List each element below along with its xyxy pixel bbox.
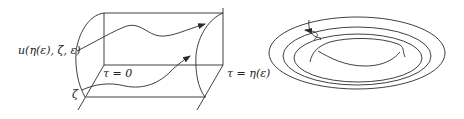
trajectory-lower xyxy=(82,56,190,90)
label-zeta: ζ xyxy=(72,88,79,101)
label-tau-eta: τ = η(ε) xyxy=(227,67,270,80)
orbit-ring-2 xyxy=(283,27,431,85)
floor-left-edge xyxy=(78,65,104,110)
trajectory-upper xyxy=(77,24,205,51)
inner-open-curve xyxy=(310,38,405,62)
closed-orbits-diagram xyxy=(269,17,445,89)
spiral-connector xyxy=(309,20,321,40)
label-solution: u(η(ε), ζ, ε) xyxy=(18,44,81,57)
diagram-canvas: u(η(ε), ζ, ε) ζ τ = 0 τ = η(ε) xyxy=(0,0,464,119)
label-tau-zero: τ = 0 xyxy=(103,67,132,80)
floor-right-edge xyxy=(197,65,223,110)
flow-tube-diagram: u(η(ε), ζ, ε) ζ τ = 0 τ = η(ε) xyxy=(18,8,270,110)
inner-lower-curve xyxy=(318,51,400,66)
orbit-ring-3 xyxy=(294,34,422,82)
